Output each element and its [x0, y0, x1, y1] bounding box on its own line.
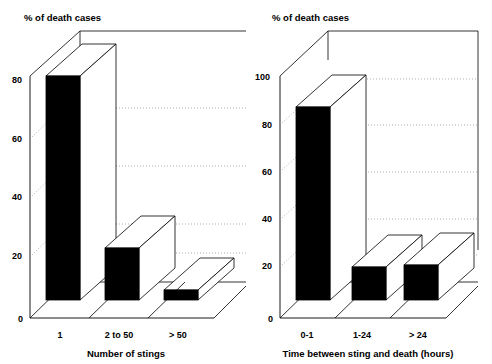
y-tick-label-left-2: 40 [12, 192, 22, 202]
x-tick-label-left-2: > 50 [169, 330, 187, 340]
chart-title-left: % of death cases [24, 12, 101, 23]
y-tick-label-left-4: 80 [12, 75, 22, 85]
x-axis-left: 1 2 to 50 > 50 [57, 330, 186, 340]
x-tick-label-left-0: 1 [57, 330, 62, 340]
figure-two-bar-charts: % of death cases [0, 0, 492, 364]
x-axis-title-right: Time between sting and death (hours) [283, 348, 454, 359]
y-tick-label-right-4: 80 [262, 120, 272, 130]
x-tick-label-left-1: 2 to 50 [105, 330, 134, 340]
x-axis-title-left: Number of stings [87, 348, 165, 359]
x-tick-label-right-1: 1-24 [353, 330, 371, 340]
stings-chart-svg: % of death cases [0, 0, 246, 364]
chart-panel-stings: % of death cases [0, 0, 246, 364]
y-tick-label-left-0: 0 [18, 314, 23, 324]
x-tick-label-right-2: > 24 [409, 330, 427, 340]
y-tick-label-right-1: 20 [262, 261, 272, 271]
x-axis-right: 0-1 1-24 > 24 [300, 330, 426, 340]
chart-panel-time-to-death: % of death cases [246, 0, 492, 364]
chart-title-right: % of death cases [272, 12, 349, 23]
y-tick-label-right-5: 100 [255, 72, 270, 82]
y-tick-label-left-1: 20 [12, 251, 22, 261]
time-to-death-chart-svg: % of death cases [246, 0, 492, 364]
y-tick-label-right-3: 60 [262, 167, 272, 177]
y-tick-label-left-3: 60 [12, 134, 22, 144]
y-tick-label-right-0: 0 [268, 314, 273, 324]
x-tick-label-right-0: 0-1 [300, 330, 313, 340]
y-tick-label-right-2: 40 [262, 214, 272, 224]
